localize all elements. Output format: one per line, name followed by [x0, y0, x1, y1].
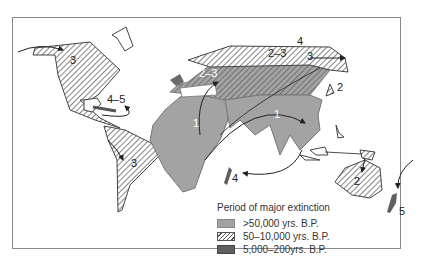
island-shape: [336, 125, 344, 138]
label-north-america: 3: [70, 54, 76, 66]
label-south-america: 3: [131, 157, 137, 169]
label-caribbean: 4–5: [107, 93, 125, 105]
legend-item: >50,000 yrs. B.P.: [217, 217, 330, 230]
caribbean-dark-region: [93, 107, 116, 111]
madagascar-region: [224, 167, 232, 185]
label-south-asia: 1: [274, 108, 280, 120]
legend: Period of major extinction >50,000 yrs. …: [217, 202, 330, 256]
caribbean-white-shape: [84, 98, 101, 112]
new-zealand-region: [387, 193, 397, 213]
africa-region: [150, 85, 228, 192]
swatch-light-gray: [217, 219, 235, 228]
migration-line: [325, 152, 362, 154]
extinction-map: 3 4–5 3 1 1 2–3 2–3 4 3 2 4 2 5: [0, 0, 426, 270]
south-asia-region: [225, 95, 322, 155]
swatch-dark-gray: [217, 245, 235, 254]
legend-title: Period of major extinction: [217, 202, 330, 213]
indonesia-islands: [310, 147, 328, 155]
new-zealand-arrow: [398, 160, 413, 188]
madagascar-arrow: [243, 150, 302, 174]
greenland-shape: [112, 27, 133, 51]
legend-label: 5,000–200yrs. B.P.: [243, 244, 327, 255]
label-madagascar: 4: [232, 172, 238, 184]
label-new-zealand: 5: [399, 205, 405, 217]
legend-label: 50–10,000 yrs. B.P.: [243, 231, 330, 242]
label-bering: 3: [307, 50, 313, 62]
legend-item: 50–10,000 yrs. B.P.: [217, 230, 330, 243]
legend-label: >50,000 yrs. B.P.: [243, 218, 319, 229]
label-europe: 2–3: [199, 67, 217, 79]
indonesia-islands-2: [300, 155, 320, 160]
japan-region: [326, 84, 334, 96]
label-arctic: 4: [297, 35, 303, 47]
label-australia: 2: [354, 175, 360, 187]
new-guinea-region: [360, 150, 375, 160]
swatch-hatched: [217, 232, 235, 241]
legend-item: 5,000–200yrs. B.P.: [217, 243, 330, 256]
label-north-asia: 2–3: [268, 47, 286, 59]
label-japan: 2: [337, 81, 343, 93]
label-africa: 1: [193, 117, 199, 129]
